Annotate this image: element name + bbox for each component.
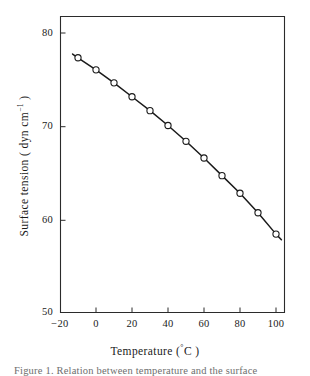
series-line: [73, 54, 282, 240]
y-axis-title-close: ): [18, 96, 30, 104]
x-tick-label-100: 100: [268, 319, 285, 330]
data-point-marker: [237, 190, 243, 196]
x-tick-label-minus20: −20: [51, 319, 68, 330]
x-axis-tick-labels: −20 0 20 40 60 80 100: [0, 319, 310, 335]
data-point-marker: [255, 210, 261, 216]
data-point-marker: [273, 231, 279, 237]
y-tick-label-50: 50: [42, 307, 53, 318]
y-tick-label-70: 70: [42, 121, 53, 132]
data-series-surface-tension: [73, 54, 282, 240]
data-point-marker: [183, 138, 189, 144]
data-point-marker: [75, 55, 81, 61]
axis-frame: [60, 16, 285, 313]
data-point-marker: [147, 108, 153, 114]
data-point-marker: [129, 94, 135, 100]
y-axis-title: Surface tension ( dyn cm−1 ): [18, 56, 30, 276]
data-point-marker: [201, 155, 207, 161]
x-tick-label-0: 0: [93, 319, 99, 330]
chart-svg: [60, 16, 285, 313]
series-markers: [75, 55, 279, 238]
x-tick-label-20: 20: [126, 319, 137, 330]
y-tick-label-80: 80: [42, 28, 53, 39]
x-tick-label-40: 40: [162, 319, 173, 330]
chart-plot-area: [60, 16, 285, 313]
data-point-marker: [93, 67, 99, 73]
x-axis-title: Temperature (°C ): [0, 345, 310, 357]
y-tick-label-60: 60: [42, 215, 53, 226]
x-tick-label-80: 80: [234, 319, 245, 330]
y-axis-title-exponent: −1: [16, 103, 25, 112]
x-axis-title-main: Temperature (: [110, 345, 180, 357]
figure-caption: Figure 1. Relation between temperature a…: [14, 365, 310, 376]
y-axis-title-main: Surface tension ( dyn cm: [18, 112, 30, 237]
data-point-marker: [219, 173, 225, 179]
y-axis-ticks: [61, 33, 66, 313]
x-axis-title-unit: C ): [184, 345, 200, 357]
x-axis-ticks: [61, 308, 277, 313]
x-tick-label-60: 60: [198, 319, 209, 330]
data-point-marker: [111, 80, 117, 86]
data-point-marker: [165, 122, 171, 128]
